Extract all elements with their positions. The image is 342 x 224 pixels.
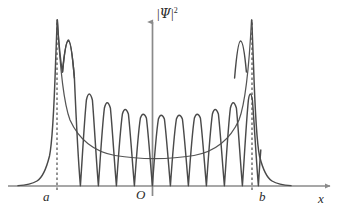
edge-peak-right — [235, 41, 247, 78]
axis-label-a: a — [43, 190, 50, 203]
tunneling-tail-right-curve — [252, 20, 291, 186]
probability-density-curve — [57, 20, 261, 186]
axis-label-origin: O — [136, 188, 145, 201]
x-axis-label: x — [318, 192, 324, 205]
wavefunction-plot — [0, 0, 342, 224]
y-axis-label: |Ψ|2 — [157, 7, 178, 20]
wkb-envelope-curve — [58, 20, 252, 159]
figure-canvas: |Ψ|2 a O b x — [0, 0, 342, 224]
edge-peak-left — [63, 41, 75, 78]
tunneling-tail-left-curve — [18, 20, 57, 186]
axis-label-b: b — [259, 190, 266, 203]
